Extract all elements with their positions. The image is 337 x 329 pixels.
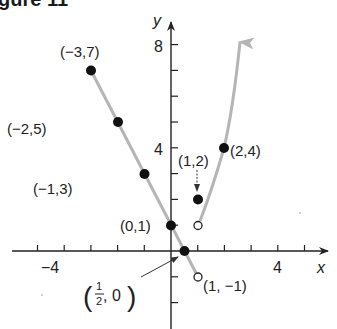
label-half-0: ( 1 2 , 0 ) (83, 280, 136, 312)
open-point-1-1 (194, 222, 202, 230)
svg-text:2: 2 (96, 295, 102, 307)
point-half-0 (180, 246, 190, 256)
point-neg3-7 (86, 66, 96, 76)
point-1-2 (193, 195, 203, 205)
label-1-2: (1,2) (178, 152, 209, 169)
scan-speck (41, 294, 43, 296)
y-tick-label-4: 4 (154, 141, 163, 158)
point-neg2-5 (113, 117, 123, 127)
svg-text:(: ( (83, 281, 93, 312)
svg-text:, 0: , 0 (103, 287, 121, 304)
label-0-1: (0,1) (120, 217, 151, 234)
x-axis: −4 4 x (12, 245, 328, 276)
point-neg1-3 (140, 169, 150, 179)
label-neg3-7: (−3,7) (60, 43, 100, 60)
open-point-1-neg1 (194, 273, 202, 281)
y-axis-label: y (152, 12, 162, 29)
svg-text:): ) (127, 281, 136, 312)
label-half-0-arrow (141, 257, 178, 277)
label-1-neg1: (1, −1) (203, 277, 247, 294)
label-2-4: (2,4) (230, 142, 261, 159)
x-tick-label-neg4: −4 (41, 259, 59, 276)
label-neg2-5: (−2,5) (7, 120, 47, 137)
x-axis-label: x (316, 259, 326, 276)
scan-speck (299, 212, 301, 214)
y-axis: 8 4 y (152, 12, 178, 329)
parabola-segment (200, 42, 240, 221)
y-tick-label-8: 8 (154, 38, 163, 55)
piecewise-function-graph: −4 4 x 8 4 y (−3,7) (−2,5) (0, 0, 337, 329)
x-tick-label-4: 4 (273, 259, 282, 276)
label-neg1-3: (−1,3) (33, 180, 73, 197)
svg-text:1: 1 (96, 280, 102, 292)
point-2-4 (219, 143, 229, 153)
point-0-1 (166, 221, 176, 231)
